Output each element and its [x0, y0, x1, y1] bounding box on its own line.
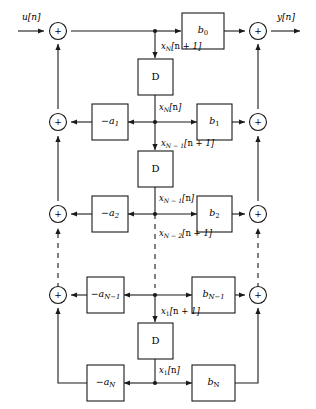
- state-xN2-next-label: xN − 2[n + 1]: [159, 229, 212, 239]
- gain-aN-label: −aN: [96, 377, 116, 389]
- summer-fb-N1-plus: +: [54, 291, 62, 300]
- summer-out-N1-plus: +: [254, 291, 262, 300]
- junction-dot-1: [153, 120, 157, 124]
- state-x1-next-label: x1[n + 1]: [161, 307, 200, 317]
- summer-out-1-plus: +: [254, 118, 262, 127]
- wire-layer: [0, 0, 316, 409]
- gain-bN-label: bN: [207, 377, 219, 389]
- gain-bN1-label: bN−1: [202, 289, 224, 301]
- wire-bN-rail-up: [235, 308, 258, 383]
- summer-out-2-plus: +: [254, 210, 262, 219]
- state-xN-next-label: xN[n + 1]: [161, 42, 201, 52]
- junction-dot-0: [153, 29, 157, 33]
- delay-1-label: D: [151, 72, 159, 82]
- state-xN1-label: xN − 1[n]: [159, 194, 194, 204]
- gain-b2-label: b2: [209, 208, 219, 220]
- signal-flow-diagram: u[n] y[n] + + + + + + + + D D D −a1 −a2 …: [0, 0, 316, 409]
- state-x1-label: x1[n]: [159, 366, 180, 376]
- gain-a2-label: −a2: [101, 208, 119, 220]
- state-xN1-next-label: xN − 1[n + 1]: [161, 139, 214, 149]
- delay-4-label: D: [151, 336, 159, 346]
- junction-dot-4: [153, 381, 157, 385]
- input-label: u[n]: [22, 13, 41, 22]
- summer-fb-2-plus: +: [54, 210, 62, 219]
- gain-a1-label: −a1: [101, 116, 119, 128]
- summer-input-plus: +: [54, 27, 62, 36]
- summer-out-0-plus: +: [254, 27, 262, 36]
- gain-b1-label: b1: [209, 116, 219, 128]
- wire-aN-rail-up: [58, 308, 87, 383]
- gain-aN1-label: −aN−1: [91, 289, 121, 301]
- output-label: y[n]: [277, 13, 295, 22]
- junction-dot-2: [153, 212, 157, 216]
- junction-dot-3: [153, 293, 157, 297]
- state-xN-label: xN[n]: [159, 103, 181, 113]
- summer-fb-1-plus: +: [54, 118, 62, 127]
- delay-2-label: D: [151, 164, 159, 174]
- gain-b0-label: b0: [198, 25, 208, 37]
